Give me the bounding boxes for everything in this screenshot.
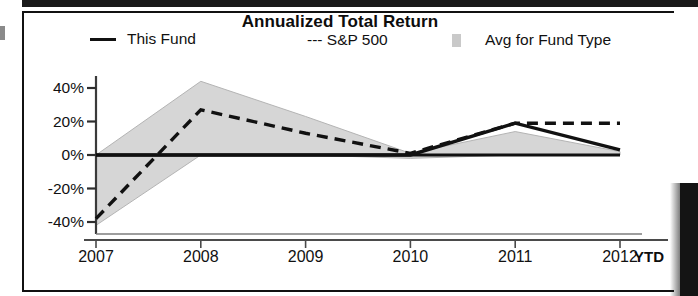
y-axis-tick-label: -40%: [28, 213, 84, 231]
scan-artifact-top-gap: [0, 7, 698, 9]
legend-label-sp500: --- S&P 500: [307, 31, 388, 49]
chart-legend: This Fund --- S&P 500 Avg for Fund Type: [22, 30, 682, 54]
scan-artifact-top-bar: [22, 0, 698, 7]
chart-title: Annualized Total Return: [22, 12, 658, 32]
scan-artifact-right-band: [680, 183, 698, 296]
x-axis-tick-label: 2011: [498, 248, 532, 266]
x-axis-tick-label: 2009: [288, 248, 324, 266]
x-axis-tick-label: 2012: [602, 248, 638, 266]
legend-item-this-fund: This Fund: [90, 30, 196, 48]
y-axis-tick-label: 40%: [28, 79, 84, 97]
x-axis-tick-label: 2008: [183, 248, 219, 266]
y-axis-tick-label: 20%: [28, 113, 84, 131]
solid-line-swatch-icon: [90, 38, 116, 41]
scan-artifact-right-fade: [670, 183, 680, 296]
legend-item-sp500: --- S&P 500: [307, 31, 388, 49]
legend-item-avg-fund-type: Avg for Fund Type: [452, 31, 611, 49]
y-axis-tick-labels: 40%20%0%-20%-40%: [28, 0, 84, 296]
legend-label-this-fund: This Fund: [127, 30, 196, 48]
y-axis-tick-label: -20%: [28, 180, 84, 198]
x-axis-tick-label: 2007: [78, 248, 114, 266]
gray-band-swatch-icon: [452, 34, 461, 47]
x-axis-ytd-label: YTD: [634, 248, 664, 265]
y-axis-tick-label: 0%: [28, 146, 84, 164]
scan-artifact-left-mark: [0, 26, 5, 40]
legend-label-avg-fund-type: Avg for Fund Type: [485, 31, 611, 49]
x-axis-tick-label: 2010: [393, 248, 429, 266]
